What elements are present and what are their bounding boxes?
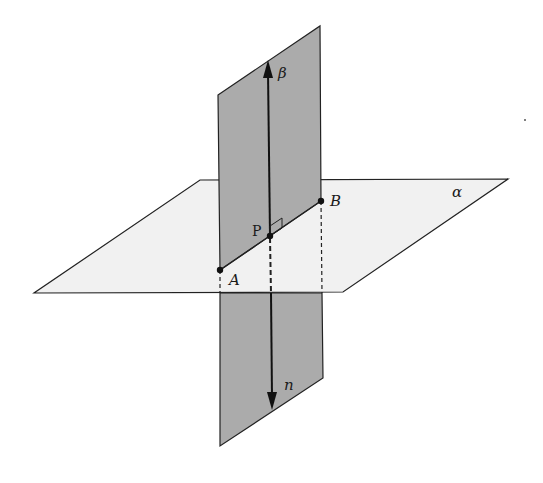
point-a <box>217 267 223 273</box>
diagram-canvas: β α A B P n <box>0 0 543 483</box>
point-b <box>318 198 324 204</box>
label-n: n <box>284 376 294 394</box>
normal-line-lower <box>271 293 272 398</box>
label-a: A <box>227 271 240 289</box>
label-b: B <box>329 192 341 210</box>
label-p: P <box>252 223 261 239</box>
label-beta: β <box>277 64 287 82</box>
speck <box>524 119 526 121</box>
point-p <box>267 233 273 239</box>
label-alpha: α <box>452 183 462 201</box>
